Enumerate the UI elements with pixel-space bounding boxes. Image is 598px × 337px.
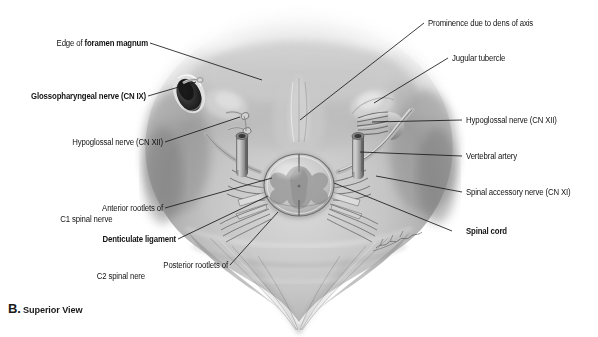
label-posterior-rootlets: Posterior rootlets of C2 spinal nere xyxy=(14,260,228,281)
label-foramen-magnum-prefix: Edge of xyxy=(57,38,85,48)
label-posterior-rootlets-line1: Posterior rootlets of xyxy=(14,260,228,271)
spinal-cord xyxy=(262,153,336,219)
label-jugular-tubercle: Jugular tubercle xyxy=(452,53,505,64)
label-anterior-rootlets-line2: C1 spinal nerve xyxy=(10,214,163,225)
anatomical-illustration xyxy=(0,0,598,337)
label-spinal-accessory-nerve: Spinal accessory nerve (CN XI) xyxy=(466,187,571,198)
label-dens-of-axis: Prominence due to dens of axis xyxy=(428,18,533,29)
label-posterior-rootlets-line2: C2 spinal nere xyxy=(14,271,228,282)
label-foramen-magnum-emphasis: foramen magnum xyxy=(85,38,148,48)
label-foramen-magnum: Edge of foramen magnum xyxy=(9,38,148,49)
label-anterior-rootlets-line1: Anterior rootlets of xyxy=(10,203,163,214)
label-glossopharyngeal-nerve: Glossopharyngeal nerve (CN IX) xyxy=(9,91,146,102)
vertebral-artery-right xyxy=(352,133,364,180)
label-anterior-rootlets: Anterior rootlets of C1 spinal nerve xyxy=(10,203,163,224)
caption-letter: B. xyxy=(8,301,21,316)
label-hypoglossal-nerve-left: Hypoglossal nerve (CN XII) xyxy=(10,137,163,148)
vertebral-artery-left xyxy=(236,133,248,178)
specimen-skull-base xyxy=(142,4,458,334)
caption-text: Superior View xyxy=(23,304,82,315)
label-spinal-cord: Spinal cord xyxy=(466,226,507,237)
label-denticulate-ligament: Denticulate ligament xyxy=(11,234,176,245)
label-vertebral-artery: Vertebral artery xyxy=(466,151,517,162)
figure-caption: B.Superior View xyxy=(8,299,86,317)
label-hypoglossal-nerve-right: Hypoglossal nerve (CN XII) xyxy=(466,115,557,126)
